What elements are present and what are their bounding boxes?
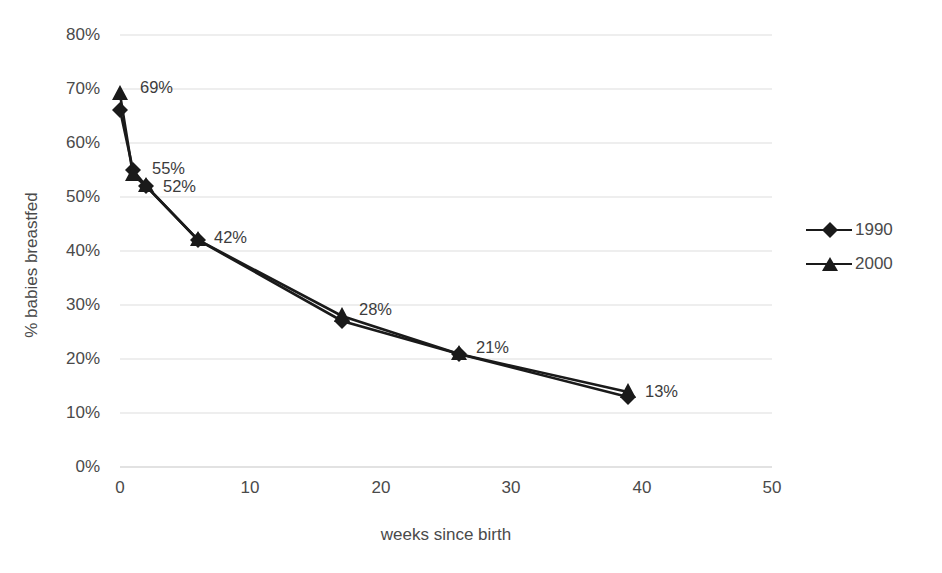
legend-key-2000 bbox=[806, 253, 852, 275]
data-label-69: 69% bbox=[140, 78, 173, 97]
data-label-52: 52% bbox=[163, 177, 196, 196]
legend-item-2000[interactable]: 2000 bbox=[806, 247, 936, 281]
data-label-28: 28% bbox=[359, 300, 392, 319]
x-axis-title: weeks since birth bbox=[120, 525, 772, 545]
data-label-21: 21% bbox=[476, 338, 509, 357]
data-label-13: 13% bbox=[645, 382, 678, 401]
diamond-marker-icon bbox=[822, 222, 838, 238]
x-tick-label-50: 50 bbox=[742, 478, 802, 498]
x-tick-label-20: 20 bbox=[351, 478, 411, 498]
x-tick-label-40: 40 bbox=[612, 478, 672, 498]
data-label-42: 42% bbox=[214, 228, 247, 247]
x-tick-label-30: 30 bbox=[481, 478, 541, 498]
x-tick-label-10: 10 bbox=[220, 478, 280, 498]
x-tick-label-0: 0 bbox=[90, 478, 150, 498]
triangle-marker bbox=[112, 85, 636, 398]
triangle-marker-icon bbox=[822, 256, 838, 272]
data-label-55: 55% bbox=[152, 159, 185, 178]
series-2000 bbox=[112, 85, 636, 398]
line-chart: % babies breastfed 80% 70% 60% 50% 40% 3… bbox=[0, 0, 942, 573]
chart-legend: 1990 2000 bbox=[806, 213, 936, 281]
legend-item-1990[interactable]: 1990 bbox=[806, 213, 936, 247]
legend-label-2000: 2000 bbox=[852, 254, 893, 274]
legend-key-1990 bbox=[806, 219, 852, 241]
legend-label-1990: 1990 bbox=[852, 220, 893, 240]
